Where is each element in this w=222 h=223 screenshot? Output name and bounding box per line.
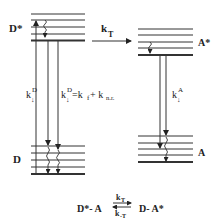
svg-text:A: A (178, 86, 183, 94)
svg-text:↓: ↓ (177, 96, 181, 104)
svg-text:k: k (101, 22, 108, 34)
svg-text:=k: =k (72, 89, 83, 100)
svg-text:D: D (32, 86, 37, 94)
forward-rate-label: k T (116, 193, 125, 203)
donor-radiative-rate-label: k D ↓ (26, 86, 37, 104)
transfer-rate-label: k T (101, 22, 114, 39)
acceptor-excited-label: A* (198, 37, 210, 48)
donor-excited-levels (31, 14, 85, 41)
acceptor-ground-label: A (198, 147, 206, 158)
acceptor-rate-label: k A ↓ (172, 86, 183, 104)
equilibrium-left: D*- A (77, 203, 103, 214)
donor-total-rate-label: k D ↓ =k f + k n.r. (61, 86, 115, 104)
svg-text:+ k: + k (90, 89, 103, 100)
donor-ground-label: D (13, 153, 21, 165)
equilibrium-right: D- A* (139, 203, 164, 214)
energy-transfer-diagram: D* D k D ↓ k D ↓ =k f + k n.r. k T A* k … (0, 0, 222, 223)
donor-excited-label: D* (9, 22, 23, 34)
svg-text:T: T (108, 30, 114, 39)
svg-text:n.r.: n.r. (106, 94, 115, 101)
svg-text:T: T (121, 197, 125, 203)
backward-rate-label: k -T (115, 209, 126, 219)
svg-text:↓: ↓ (66, 96, 70, 104)
svg-text:↓: ↓ (31, 96, 35, 104)
svg-text:-T: -T (120, 213, 126, 219)
acceptor-excited-levels (138, 29, 193, 55)
